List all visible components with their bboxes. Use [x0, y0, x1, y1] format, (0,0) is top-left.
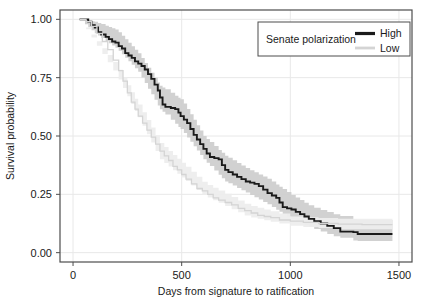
x-axis-title: Days from signature to ratification [158, 285, 315, 297]
x-tick-label: 1500 [387, 269, 411, 281]
y-tick-label: 1.00 [31, 13, 52, 25]
survival-plot-figure: 050010001500 0.000.250.500.751.00 Days f… [0, 0, 430, 306]
y-tick-label: 0.25 [31, 188, 52, 200]
chart-canvas: 050010001500 0.000.250.500.751.00 Days f… [0, 0, 430, 306]
y-tick-label: 0.50 [31, 130, 52, 142]
legend-label-high[interactable]: High [380, 27, 402, 39]
legend[interactable]: Senate polarization High Low [258, 22, 410, 56]
legend-title: Senate polarization [266, 33, 356, 45]
y-tick-label: 0.75 [31, 72, 52, 84]
x-tick-label: 500 [172, 269, 190, 281]
x-tick-label: 1000 [278, 269, 302, 281]
y-tick-label: 0.00 [31, 247, 52, 259]
y-axis-title: Survival probability [4, 91, 16, 180]
x-tick-label: 0 [70, 269, 76, 281]
legend-label-low[interactable]: Low [380, 42, 400, 54]
